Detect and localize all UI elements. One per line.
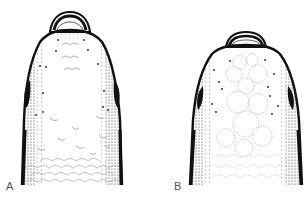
figure: A B <box>0 0 306 198</box>
panel-label-a: A <box>6 181 13 192</box>
head-b <box>188 32 304 189</box>
illustration <box>0 0 306 198</box>
head-a <box>20 12 124 188</box>
panel-label-b: B <box>174 181 181 192</box>
